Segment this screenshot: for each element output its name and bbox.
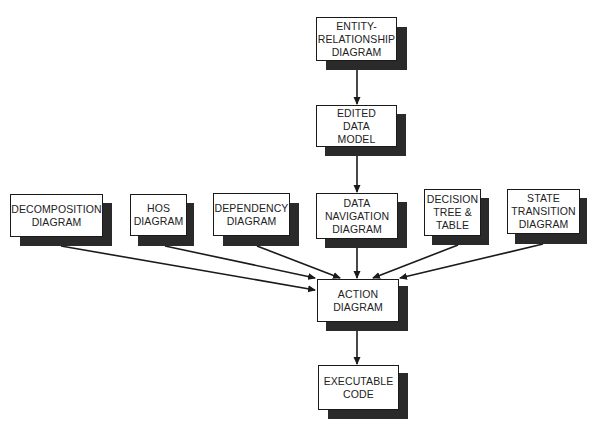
node-box: ACTION DIAGRAM	[317, 279, 399, 322]
node-label-line: TABLE	[427, 219, 479, 232]
node-label-line: DATA	[325, 197, 389, 210]
node-label-line: STATE	[511, 192, 576, 205]
node-label-line: DIAGRAM	[511, 218, 576, 231]
node-label-line: HOS	[134, 202, 184, 215]
node-box: EDITED DATA MODEL	[316, 105, 397, 147]
node-label-line: DIAGRAM	[325, 223, 389, 236]
node-label-line: DECOMPOSITION	[11, 203, 102, 216]
node-label-line: DEPENDENCY	[215, 202, 289, 215]
node-label-line: DATA	[337, 120, 376, 133]
arrow-hos-to-action	[165, 246, 315, 278]
node-box: HOS DIAGRAM	[130, 194, 187, 236]
node-box: ENTITY- RELATIONSHIP DIAGRAM	[316, 17, 397, 61]
node-box: DEPENDENCY DIAGRAM	[213, 193, 290, 236]
node-label-line: NAVIGATION	[325, 210, 389, 223]
diagram-canvas: ENTITY- RELATIONSHIP DIAGRAM EDITED DATA…	[0, 0, 602, 433]
node-label-line: TRANSITION	[511, 205, 576, 218]
arrow-decision-to-action	[373, 245, 458, 278]
node-label-line: DIAGRAM	[333, 301, 383, 314]
node-label-line: CODE	[324, 388, 394, 401]
node-label-line: TREE &	[427, 206, 479, 219]
arrow-decomp-to-action	[61, 246, 315, 290]
node-box: DECOMPOSITION DIAGRAM	[10, 194, 103, 237]
node-label-line: ACTION	[333, 288, 383, 301]
node-label-line: DIAGRAM	[215, 215, 289, 228]
node-label-line: EXECUTABLE	[324, 375, 394, 388]
arrow-state-to-action	[400, 244, 543, 278]
node-label-line: DECISION	[427, 193, 479, 206]
node-label-line: RELATIONSHIP	[318, 33, 395, 46]
node-box: STATE TRANSITION DIAGRAM	[507, 189, 580, 234]
node-label-line: ENTITY-	[318, 20, 395, 33]
node-label-line: DIAGRAM	[134, 215, 184, 228]
node-box: DECISION TREE & TABLE	[424, 189, 481, 236]
arrow-dependency-to-action	[257, 246, 340, 278]
node-label-line: EDITED	[337, 107, 376, 120]
node-label-line: DIAGRAM	[318, 46, 395, 59]
node-label-line: MODEL	[337, 133, 376, 146]
node-box: DATA NAVIGATION DIAGRAM	[316, 193, 398, 239]
node-label-line: DIAGRAM	[11, 216, 102, 229]
node-box: EXECUTABLE CODE	[318, 365, 399, 410]
